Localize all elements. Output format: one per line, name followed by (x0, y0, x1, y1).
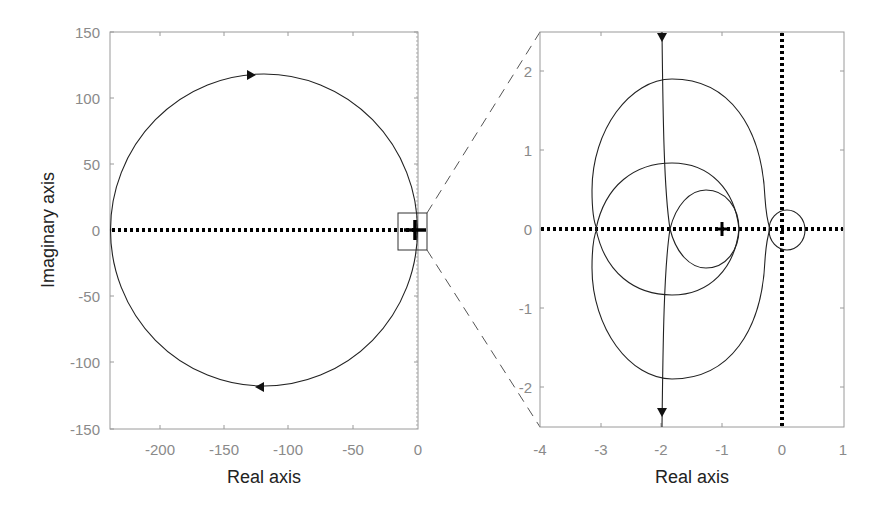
left-ytick-neg50: -50 (78, 288, 100, 305)
left-xtick-neg200: -200 (145, 441, 175, 458)
zoom-connector-bottom (427, 250, 540, 427)
nyquist-figure: 150 100 50 0 -50 -100 -150 -200 -150 -10… (0, 0, 889, 515)
critical-point-plus-icon (404, 220, 426, 240)
left-plot: 150 100 50 0 -50 -100 -150 -200 -150 -10… (38, 24, 427, 487)
arrow-down-bottom-icon (657, 408, 667, 417)
left-ytick-neg100: -100 (70, 354, 100, 371)
critical-point-plus-icon (715, 222, 729, 236)
arrow-left-icon (255, 382, 264, 392)
right-ytick-0: 0 (524, 221, 532, 238)
right-ytick-neg2: -2 (519, 379, 532, 396)
left-ytick-100: 100 (75, 90, 100, 107)
left-ylabel: Imaginary axis (38, 172, 58, 288)
left-ytick-150: 150 (75, 24, 100, 41)
right-ytick-2: 2 (524, 63, 532, 80)
right-xtick-neg2: -2 (654, 441, 667, 458)
right-ytick-neg1: -1 (519, 300, 532, 317)
left-xtick-0: 0 (414, 441, 422, 458)
right-plot: 2 1 0 -1 -2 -4 -3 -2 -1 0 1 Real axis (519, 32, 848, 487)
right-xtick-0: 0 (778, 441, 786, 458)
zoom-connector-top (427, 32, 540, 213)
right-xlabel: Real axis (655, 467, 729, 487)
left-xlabel: Real axis (227, 467, 301, 487)
left-xtick-neg50: -50 (342, 441, 364, 458)
right-xtick-1: 1 (839, 441, 847, 458)
right-xtick-neg3: -3 (594, 441, 607, 458)
right-ytick-1: 1 (524, 142, 532, 159)
left-ytick-0: 0 (92, 222, 100, 239)
arrow-right-icon (247, 70, 256, 80)
left-xtick-neg150: -150 (209, 441, 239, 458)
left-xtick-neg100: -100 (273, 441, 303, 458)
arrow-down-top-icon (657, 33, 667, 42)
right-xtick-neg4: -4 (533, 441, 546, 458)
right-xtick-neg1: -1 (715, 441, 728, 458)
left-ytick-50: 50 (83, 156, 100, 173)
left-ytick-neg150: -150 (70, 421, 100, 438)
